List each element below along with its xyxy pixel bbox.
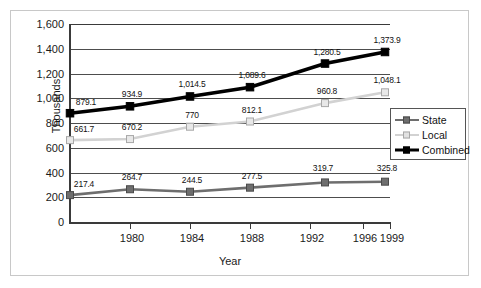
x-tick — [390, 222, 391, 229]
gridline — [70, 173, 390, 174]
data-label: 325.8 — [377, 163, 397, 173]
legend-item-local[interactable]: Local — [395, 127, 461, 142]
data-label: 277.5 — [242, 171, 262, 181]
x-tick-label: 1984 — [180, 232, 204, 244]
data-label: 670.2 — [122, 122, 142, 132]
data-label: 770 — [185, 110, 199, 120]
x-tick — [250, 222, 251, 229]
gridline — [70, 24, 390, 25]
y-tick-label: 400 — [0, 167, 64, 179]
x-tick-label: 1996 — [353, 232, 377, 244]
y-axis-title: Thousands — [50, 46, 62, 166]
x-axis-title: Year — [70, 255, 390, 267]
data-label: 1,048.1 — [374, 75, 401, 85]
legend: State Local Combined — [390, 108, 466, 160]
legend-label-state: State — [419, 114, 447, 126]
data-label: 879.1 — [76, 97, 96, 107]
gridline — [70, 98, 390, 99]
data-label: 1,280.5 — [314, 47, 341, 57]
plot-area — [70, 24, 390, 222]
x-tick — [363, 222, 364, 229]
gridline — [70, 197, 390, 198]
x-tick-label: 1988 — [240, 232, 264, 244]
data-label: 319.7 — [313, 163, 333, 173]
x-tick-label: 1992 — [300, 232, 324, 244]
gridline — [70, 49, 390, 50]
legend-item-combined[interactable]: Combined — [395, 142, 461, 157]
legend-swatch-combined — [395, 144, 419, 156]
legend-swatch-state — [395, 114, 419, 126]
x-tick-label: 1999 — [380, 232, 404, 244]
data-label: 244.5 — [182, 175, 202, 185]
data-label: 217.4 — [74, 179, 94, 189]
legend-label-local: Local — [419, 129, 447, 141]
data-label: 264.7 — [122, 172, 142, 182]
x-tick — [310, 222, 311, 229]
y-axis-line — [69, 24, 71, 222]
data-label: 1,089.6 — [239, 70, 266, 80]
x-tick-label: 1980 — [120, 232, 144, 244]
data-label: 1,373.9 — [374, 35, 401, 45]
y-tick-label: 1,600 — [0, 18, 64, 30]
data-label: 1,014.5 — [179, 79, 206, 89]
gridline — [70, 148, 390, 149]
y-tick-label: 0 — [0, 216, 64, 228]
legend-swatch-local — [395, 129, 419, 141]
data-label: 661.7 — [74, 124, 94, 134]
y-tick-label: 200 — [0, 191, 64, 203]
legend-label-combined: Combined — [419, 144, 470, 156]
data-label: 960.8 — [317, 86, 337, 96]
data-label: 812.1 — [242, 105, 262, 115]
x-tick — [190, 222, 191, 229]
legend-item-state[interactable]: State — [395, 112, 461, 127]
chart-figure: 1,6001,4001,2001,0008006004002000 Thousa… — [0, 0, 481, 288]
gridline — [70, 123, 390, 124]
x-tick — [130, 222, 131, 229]
x-axis-line — [69, 222, 390, 224]
gridline — [70, 74, 390, 75]
data-label: 934.9 — [122, 89, 142, 99]
